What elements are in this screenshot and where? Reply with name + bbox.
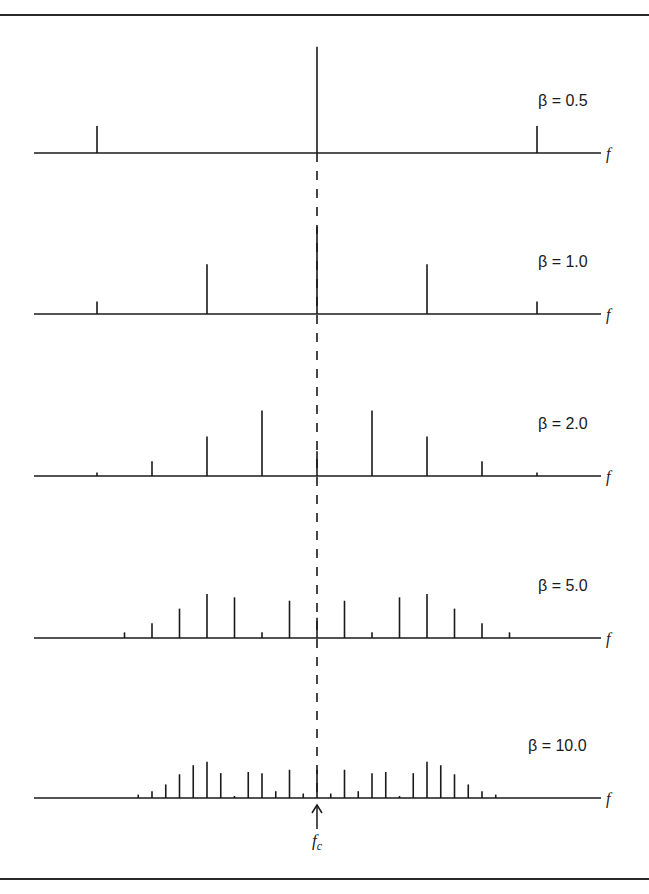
beta-label: β = 10.0: [528, 737, 587, 754]
beta-label: β = 1.0: [538, 253, 588, 270]
axis-label-f: f: [606, 790, 613, 808]
beta-label: β = 5.0: [538, 577, 588, 594]
axis-label-f: f: [606, 145, 613, 163]
axis-label-f: f: [606, 306, 613, 324]
beta-label: β = 2.0: [538, 415, 588, 432]
carrier-subscript: c: [317, 839, 323, 853]
fm-spectra-chart: fβ = 0.5fβ = 1.0fβ = 2.0fβ = 5.0fβ = 10.…: [0, 0, 649, 894]
carrier-frequency-label: fc: [312, 831, 323, 853]
axis-label-f: f: [606, 630, 613, 648]
axis-label-f: f: [606, 468, 613, 486]
beta-label: β = 0.5: [538, 92, 588, 109]
